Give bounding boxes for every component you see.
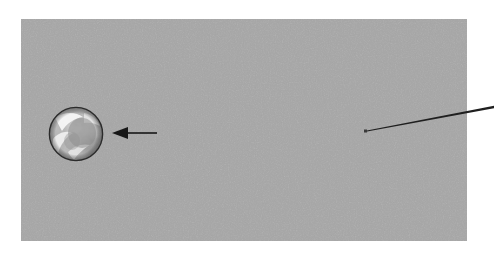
small-point-source [364,130,367,133]
figure-canvas [0,0,495,257]
figure-root: large-sphere small-point-source left-poi… [0,0,495,257]
